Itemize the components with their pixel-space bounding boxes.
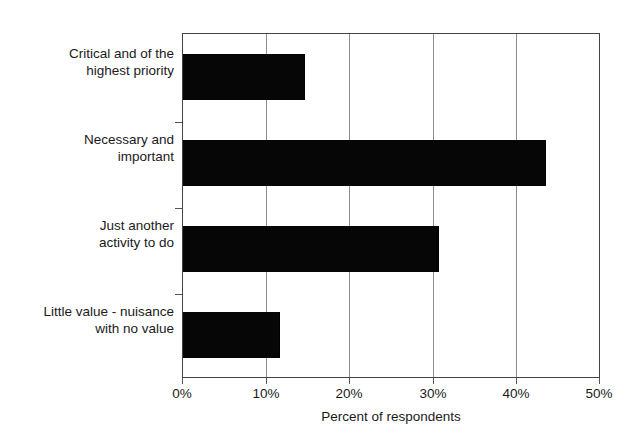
- x-axis-tick-label-10: 10%: [236, 386, 296, 401]
- x-axis-tick-label-50: 50%: [569, 386, 629, 401]
- y-axis-tick: [175, 208, 182, 209]
- bar-row-just-another-activity: [183, 206, 599, 292]
- bar-necessary: [183, 140, 546, 186]
- x-axis-tick-label-40: 40%: [486, 386, 546, 401]
- x-axis-tick: [433, 378, 434, 384]
- category-label-critical: Critical and of the highest priority: [10, 45, 182, 79]
- category-label-line: with no value: [10, 320, 174, 337]
- bar-row-critical: [183, 34, 599, 120]
- category-axis-labels: Critical and of the highest priority Nec…: [0, 33, 182, 378]
- category-label-line: Critical and of the: [10, 45, 174, 62]
- x-axis-tick: [182, 378, 183, 384]
- x-axis-tick-label-20: 20%: [319, 386, 379, 401]
- plot-area: [182, 33, 600, 378]
- category-label-just-another-activity: Just another activity to do: [10, 217, 182, 251]
- bar-row-necessary: [183, 120, 599, 206]
- category-label-line: activity to do: [10, 234, 174, 251]
- category-label-line: important: [10, 148, 174, 165]
- bar-chart-figure: Critical and of the highest priority Nec…: [0, 0, 642, 448]
- bar-just-another-activity: [183, 226, 439, 272]
- x-axis-tick-label-0: 0%: [152, 386, 212, 401]
- bar-little-value: [183, 312, 280, 358]
- category-label-little-value: Little value - nuisance with no value: [10, 303, 182, 337]
- x-axis-tick: [599, 378, 600, 384]
- category-label-line: highest priority: [10, 62, 174, 79]
- x-axis-title: Percent of respondents: [182, 409, 600, 424]
- y-axis-tick: [175, 294, 182, 295]
- category-label-line: Necessary and: [10, 131, 174, 148]
- x-axis-tick: [266, 378, 267, 384]
- bar-row-little-value: [183, 292, 599, 378]
- category-label-line: Just another: [10, 217, 174, 234]
- x-axis-tick: [516, 378, 517, 384]
- x-axis-tick: [349, 378, 350, 384]
- y-axis-tick: [175, 122, 182, 123]
- bar-critical: [183, 54, 305, 100]
- x-axis-tick-label-30: 30%: [403, 386, 463, 401]
- category-label-line: Little value - nuisance: [10, 303, 174, 320]
- category-label-necessary: Necessary and important: [10, 131, 182, 165]
